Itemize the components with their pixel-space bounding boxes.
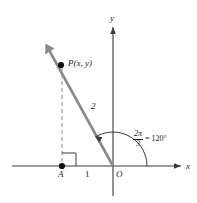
y-axis <box>110 27 116 196</box>
x-axis-arrowhead <box>174 163 181 169</box>
figure-canvas <box>0 0 197 203</box>
point-p-dot <box>58 62 64 68</box>
point-a-label: A <box>58 170 64 179</box>
x-axis-label: x <box>186 162 190 171</box>
angle-fraction: 2π 3 <box>133 130 143 149</box>
y-axis-arrowhead <box>110 27 116 34</box>
origin-label: O <box>116 170 123 179</box>
angle-measure-label: 2π 3 = 120° <box>133 130 167 149</box>
angle-equals-sign: = <box>145 135 150 143</box>
point-p-label: P(x, y) <box>68 59 92 68</box>
angle-fraction-numerator: 2π <box>133 130 143 138</box>
radius-length-label: 2 <box>91 102 96 111</box>
y-axis-label: y <box>110 14 114 23</box>
angle-degrees-value: 120° <box>152 135 167 143</box>
angle-fraction-denominator: 3 <box>135 140 141 148</box>
base-length-label: 1 <box>85 170 90 179</box>
x-axis <box>12 163 181 169</box>
trig-angle-figure: y x O A 1 2 P(x, y) 2π 3 = 120° <box>0 0 197 203</box>
